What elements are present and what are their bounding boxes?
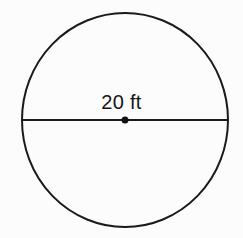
diameter-measurement-label: 20 ft [0,90,243,114]
center-dot [122,117,129,124]
geometry-canvas [0,0,243,238]
circle-diagram-figure: 20 ft [0,0,243,238]
